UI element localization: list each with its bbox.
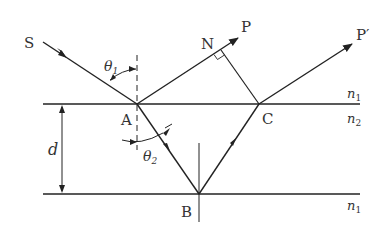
label-d: d	[48, 140, 58, 159]
theta2-arrow-icon	[130, 139, 137, 145]
label-n-bottom: n1	[347, 198, 361, 215]
incident-ray	[43, 42, 137, 104]
thickness-arrow-bottom-icon	[59, 185, 65, 193]
incident-arrowhead-icon	[58, 50, 67, 58]
label-b: B	[181, 203, 192, 221]
reflected-ray-bc	[199, 104, 259, 194]
theta2-tick	[165, 124, 172, 128]
label-p-prime: P′	[356, 26, 370, 44]
label-p: P	[241, 18, 251, 36]
label-n-film: n2	[347, 111, 361, 128]
thin-film-diagram: S θ1 N P P′ A C B θ2 d n1 n2 n1	[0, 0, 388, 232]
theta2-arrow2-icon	[163, 128, 170, 136]
theta2-arc	[122, 133, 163, 142]
transmitted-ray-p-prime	[259, 44, 352, 104]
thickness-arrow-top-icon	[59, 105, 65, 113]
theta1-arrow-icon	[129, 66, 136, 72]
label-c: C	[262, 110, 273, 128]
label-theta1: θ1	[104, 58, 118, 76]
perpendicular-nc	[221, 50, 259, 104]
right-angle-mark	[214, 55, 225, 60]
bc-arrow-icon	[230, 138, 236, 146]
label-n-top: n1	[347, 86, 361, 103]
label-n: N	[201, 35, 214, 53]
label-a: A	[120, 111, 132, 129]
ab-arrow-icon	[163, 143, 170, 151]
label-s: S	[24, 34, 34, 52]
reflected-ray-p	[137, 38, 238, 104]
label-theta2: θ2	[143, 148, 157, 166]
